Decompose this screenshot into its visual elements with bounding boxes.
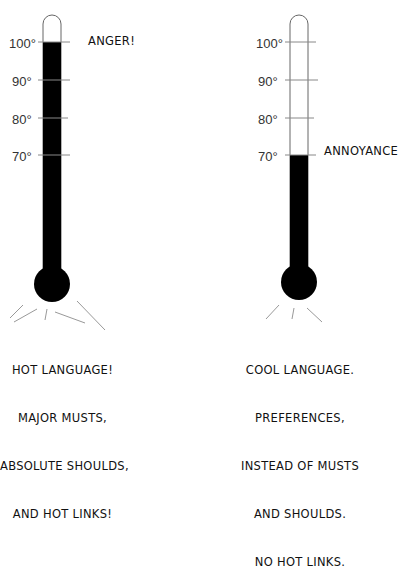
- caption-line: AND HOT LINKS!: [0, 506, 125, 522]
- caption-line: COOL LANGUAGE.: [240, 362, 360, 378]
- caption-line: AND SHOULDS.: [240, 506, 360, 522]
- level-label-annoyance: ANNOYANCE: [324, 144, 398, 158]
- tick-label-90-right: 90°: [258, 74, 278, 89]
- caption-line: INSTEAD OF MUSTS: [240, 458, 360, 474]
- thermometer-left: 100° 90° 80° 70° ANGER!: [9, 15, 135, 330]
- thermometer-right-bulb: [281, 264, 317, 300]
- caption-line: NO HOT LINKS.: [240, 554, 360, 570]
- caption-line: MAJOR MUSTS,: [0, 410, 125, 426]
- heat-rays-left: [10, 301, 105, 330]
- tick-label-70: 70°: [12, 149, 32, 164]
- tick-label-100-right: 100°: [256, 36, 283, 51]
- tick-label-90: 90°: [12, 74, 32, 89]
- thermometer-left-mercury: [43, 42, 61, 277]
- cool-rays-right: [266, 305, 322, 322]
- thermometer-right: 100° 90° 80° 70° ANNOYANCE: [256, 15, 398, 322]
- caption-hot-language: HOT LANGUAGE! MAJOR MUSTS, ABSOLUTE SHOU…: [0, 330, 125, 538]
- thermometer-left-bulb: [34, 266, 70, 302]
- thermometer-right-mercury: [290, 155, 308, 275]
- tick-label-80-right: 80°: [258, 112, 278, 127]
- tick-label-100: 100°: [9, 36, 36, 51]
- caption-cool-language: COOL LANGUAGE. PREFERENCES, INSTEAD OF M…: [240, 330, 360, 570]
- caption-line: PREFERENCES,: [240, 410, 360, 426]
- caption-line: HOT LANGUAGE!: [0, 362, 125, 378]
- caption-line: ABSOLUTE SHOULDS,: [0, 458, 125, 474]
- level-label-anger: ANGER!: [88, 34, 135, 48]
- tick-label-70-right: 70°: [258, 149, 278, 164]
- tick-label-80: 80°: [12, 112, 32, 127]
